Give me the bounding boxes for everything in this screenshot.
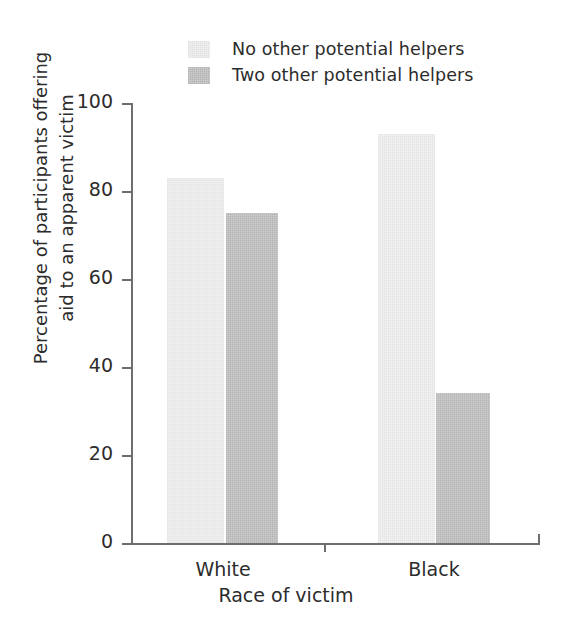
y-axis-title-line-2: aid to an apparent victim [54,32,80,384]
legend-item-no-other-potential-helpers: No other potential helpers [188,36,518,62]
y-tick-20: 20 [122,455,131,457]
y-tick-60: 60 [122,279,131,281]
x-tick-axis-end [538,534,540,545]
y-tick-label-40: 40 [89,354,113,376]
chart-legend: No other potential helpers Two other pot… [188,36,518,88]
y-tick-label-60: 60 [89,266,113,288]
y-tick-label-20: 20 [89,442,113,464]
x-tick-group-separator [324,543,326,552]
x-axis-line [131,543,540,545]
bar-chart-figure: No other potential helpers Two other pot… [0,0,572,624]
y-tick-label-0: 0 [101,530,113,552]
legend-label-series-2: Two other potential helpers [232,65,474,85]
x-tick-label-white: White [195,558,250,580]
y-tick-80: 80 [122,191,131,193]
plot-area: 100 80 60 40 20 0 White Black [131,103,540,545]
y-axis-title: Percentage of participants offering aid … [28,32,80,384]
x-tick-label-black: Black [408,558,459,580]
bar-black-no-other-potential-helpers [378,134,435,543]
bar-white-no-other-potential-helpers [167,178,224,543]
y-tick-100: 100 [122,103,131,105]
y-tick-40: 40 [122,367,131,369]
y-axis-title-line-1: Percentage of participants offering [28,32,54,384]
y-tick-0: 0 [122,543,131,545]
y-tick-label-80: 80 [89,178,113,200]
x-axis-title: Race of victim [0,584,572,606]
y-axis-line [131,103,133,545]
bar-white-two-other-potential-helpers [226,213,278,543]
legend-swatch-dark-gray-icon [188,67,210,84]
legend-label-series-1: No other potential helpers [232,39,464,59]
bar-black-two-other-potential-helpers [436,393,490,543]
y-tick-label-100: 100 [77,90,113,112]
legend-swatch-light-gray-icon [188,41,210,58]
legend-item-two-other-potential-helpers: Two other potential helpers [188,62,518,88]
